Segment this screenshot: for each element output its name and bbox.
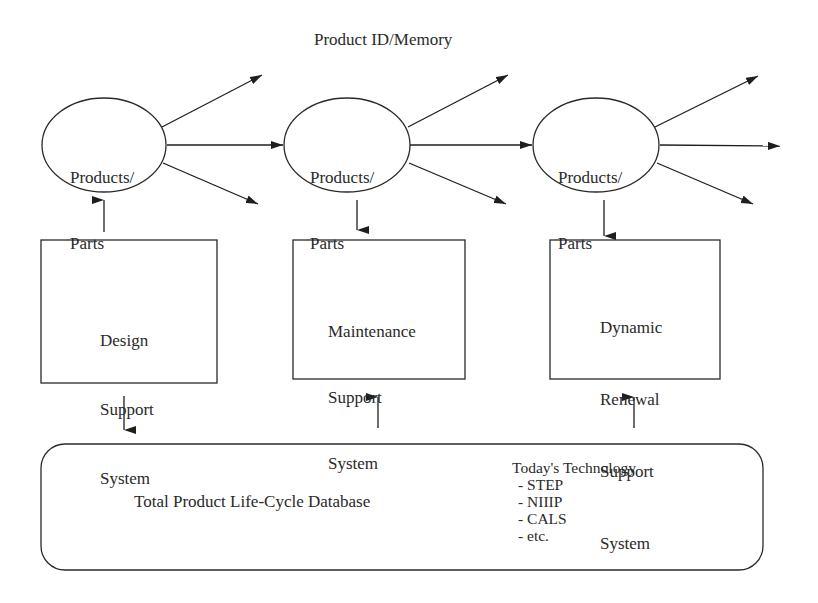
arrow-parts1-down-right	[163, 163, 258, 204]
arrow-parts1-up-right	[162, 75, 262, 127]
system-label-line: Support	[328, 387, 416, 409]
technology-item: - STEP	[512, 476, 636, 493]
products-parts-label-1: Products/ Parts	[70, 123, 134, 277]
arrow-parts3-up-right	[655, 76, 758, 127]
arrow-parts3-down-right	[657, 163, 753, 204]
arrow-parts2-up-right	[408, 75, 508, 127]
technology-item: - etc.	[512, 527, 636, 544]
database-label: Total Product Life-Cycle Database	[134, 492, 370, 512]
products-parts-line2: Parts	[310, 233, 374, 255]
system-label-line: Design	[100, 329, 154, 352]
products-parts-line2: Parts	[70, 233, 134, 255]
system-label-line: System	[328, 453, 416, 475]
todays-technology-heading: Today's Technology	[512, 459, 636, 476]
arrow-parts3-right	[660, 145, 780, 146]
system-label-line: Support	[100, 398, 154, 421]
products-parts-line2: Parts	[558, 233, 622, 255]
system-label-line: Dynamic	[600, 316, 662, 340]
products-parts-line1: Products/	[310, 167, 374, 189]
system-label-line: Maintenance	[328, 321, 416, 343]
technology-item: - NIIIP	[512, 493, 636, 510]
products-parts-line1: Products/	[70, 167, 134, 189]
system-label-line: Renewal	[600, 388, 662, 412]
products-parts-label-3: Products/ Parts	[558, 123, 622, 277]
maintenance-support-system-label: Maintenance Support System	[328, 277, 416, 497]
system-label-line: System	[100, 467, 154, 490]
todays-technology-list: Today's Technology - STEP - NIIIP - CALS…	[512, 459, 636, 544]
diagram-title: Product ID/Memory	[314, 30, 452, 50]
products-parts-line1: Products/	[558, 167, 622, 189]
products-parts-label-2: Products/ Parts	[310, 123, 374, 277]
arrow-parts2-down-right	[409, 163, 506, 204]
design-support-system-label: Design Support System	[100, 283, 154, 513]
technology-item: - CALS	[512, 510, 636, 527]
